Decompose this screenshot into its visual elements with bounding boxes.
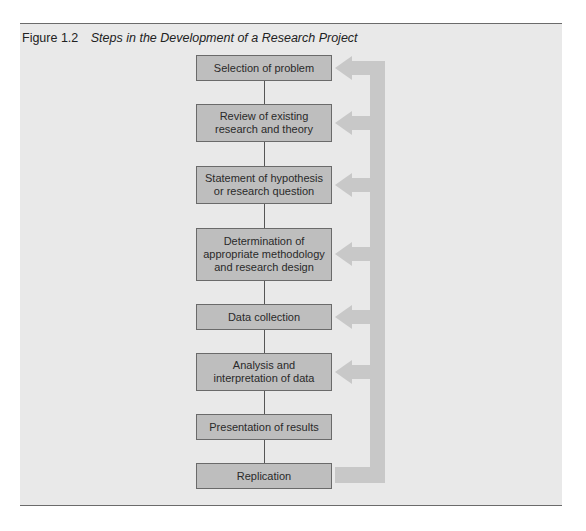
- step-review-of-research: Review of existing research and theory: [196, 104, 332, 142]
- step-determination-of-methodology: Determination of appropriate methodology…: [196, 228, 332, 281]
- step-analysis-and-interpretation: Analysis and interpretation of data: [196, 353, 332, 391]
- step-replication: Replication: [196, 463, 332, 489]
- step-data-collection: Data collection: [196, 304, 332, 330]
- feedback-bottom-shaft: [335, 467, 385, 483]
- feedback-arrow-step-4: [335, 242, 372, 266]
- connector-2-3: [264, 142, 265, 166]
- step-statement-of-hypothesis: Statement of hypothesis or research ques…: [196, 166, 332, 204]
- feedback-arrow-step-1: [335, 56, 372, 80]
- connector-3-4: [264, 204, 265, 228]
- connector-1-2: [264, 81, 265, 104]
- step-selection-of-problem: Selection of problem: [196, 55, 332, 81]
- connector-5-6: [264, 330, 265, 353]
- feedback-arrow-step-5: [335, 305, 372, 329]
- feedback-arrow-step-3: [335, 173, 372, 197]
- connector-7-8: [264, 440, 265, 463]
- connector-4-5: [264, 281, 265, 304]
- feedback-vertical-bar: [370, 61, 385, 483]
- feedback-arrow-step-2: [335, 111, 372, 135]
- connector-6-7: [264, 391, 265, 414]
- step-presentation-of-results: Presentation of results: [196, 414, 332, 440]
- feedback-arrow-step-6: [335, 360, 372, 384]
